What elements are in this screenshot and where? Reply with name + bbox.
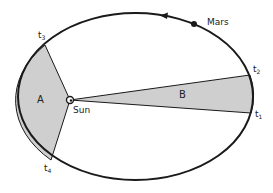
time-label-t1: t1 xyxy=(255,110,262,120)
sector-b-label: B xyxy=(179,90,186,100)
time-label-t4: t4 xyxy=(44,164,51,174)
sun-label: Sun xyxy=(73,106,90,115)
planet-label: Mars xyxy=(207,18,229,27)
sector-b xyxy=(70,75,254,113)
time-label-t2: t2 xyxy=(253,65,260,75)
time-label-t3: t3 xyxy=(38,31,45,41)
mars-dot xyxy=(191,21,197,27)
sector-a-label: A xyxy=(37,95,44,105)
direction-arrow-icon xyxy=(160,13,168,20)
